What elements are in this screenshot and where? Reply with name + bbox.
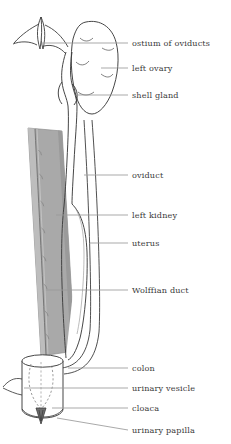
label-wolffian-duct: Wolffian duct xyxy=(132,286,189,295)
figure-root: ostium of oviducts left ovary shell glan… xyxy=(0,0,231,444)
label-cloaca: cloaca xyxy=(132,404,159,413)
label-left-ovary: left ovary xyxy=(132,64,173,73)
label-shell-gland: shell gland xyxy=(132,91,179,100)
label-oviduct: oviduct xyxy=(132,171,163,180)
label-urinary-papilla: urinary papilla xyxy=(132,426,195,435)
label-left-kidney: left kidney xyxy=(132,211,177,220)
label-layer: ostium of oviducts left ovary shell glan… xyxy=(0,0,231,444)
label-colon: colon xyxy=(132,364,155,373)
label-uterus: uterus xyxy=(132,239,159,248)
label-ostium-of-oviducts: ostium of oviducts xyxy=(132,39,210,48)
label-urinary-vesicle: urinary vesicle xyxy=(132,384,195,393)
